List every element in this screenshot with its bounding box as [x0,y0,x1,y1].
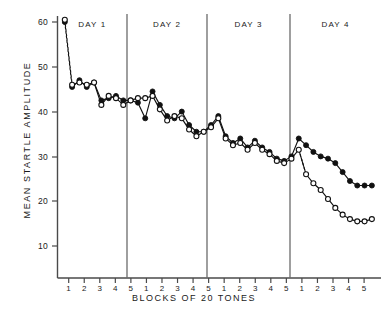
open-circle-series-point-29 [267,152,272,157]
open-circle-series-point-7 [106,93,111,98]
open-circle-series-point-34 [304,172,309,177]
filled-circle-series-point-33 [296,136,301,141]
xtick-label-18: 3 [327,284,339,293]
ytick-label-10: 10 [26,241,48,251]
filled-circle-series-point-39 [340,170,345,175]
open-circle-series-point-32 [289,156,294,161]
filled-circle-series-point-38 [333,161,338,166]
open-circle-series-point-42 [362,219,367,224]
xtick-label-7: 2 [156,284,168,293]
xtick-label-2: 2 [78,284,90,293]
x-axis-ticks [69,278,364,283]
open-circle-series-point-37 [326,196,331,201]
open-circle-series-point-18 [187,127,192,132]
open-circle-series-point-28 [260,147,265,152]
xtick-label-5: 5 [125,284,137,293]
day-label-1: DAY 1 [62,20,122,29]
open-circle-series-point-11 [135,96,140,101]
open-circle-series-point-26 [245,147,250,152]
filled-circle-series-point-41 [355,183,360,188]
y-axis-ticks [52,22,58,246]
open-circle-series-point-5 [92,80,97,85]
plot-canvas [0,0,388,317]
open-circle-series-point-8 [113,96,118,101]
open-circle-series-point-25 [238,140,243,145]
xtick-label-11: 1 [218,284,230,293]
xtick-label-9: 4 [187,284,199,293]
x-axis-title: BLOCKS OF 20 TONES [0,293,388,303]
open-circle-series-point-14 [157,107,162,112]
open-circle-series-point-15 [165,118,170,123]
open-circle-series-point-40 [347,217,352,222]
filled-circle-series-point-37 [326,156,331,161]
open-circle-series-point-16 [172,114,177,119]
xtick-label-10: 5 [203,284,215,293]
series-markers [62,17,374,224]
day-label-3: DAY 3 [219,20,279,29]
xtick-label-16: 1 [296,284,308,293]
axis-lines [58,16,382,278]
xtick-label-20: 5 [358,284,370,293]
open-circle-series-point-22 [216,116,221,121]
open-circle-series-point-19 [194,134,199,139]
open-circle-series-point-13 [150,93,155,98]
open-circle-series-point-41 [355,219,360,224]
open-circle-series-point-27 [252,140,257,145]
open-circle-series-point-20 [201,129,206,134]
open-circle-series-point-10 [128,98,133,103]
xtick-label-3: 3 [94,284,106,293]
open-circle-series-point-31 [282,161,287,166]
xtick-label-6: 1 [140,284,152,293]
xtick-label-8: 3 [172,284,184,293]
open-circle-series-point-30 [274,158,279,163]
open-circle-series-point-36 [318,188,323,193]
day-dividers [127,14,290,278]
open-circle-series-point-23 [223,136,228,141]
day-label-4: DAY 4 [306,20,366,29]
open-circle-series-point-35 [311,181,316,186]
y-axis-title: MEAN STARTLE AMPLITUDE [22,55,32,225]
open-circle-series-point-43 [369,217,374,222]
filled-circle-series-point-35 [311,149,316,154]
filled-circle-series-point-42 [362,183,367,188]
xtick-label-13: 3 [249,284,261,293]
xtick-label-12: 2 [234,284,246,293]
open-circle-series-point-12 [143,96,148,101]
startle-amplitude-chart: 60 50 40 30 20 10 12345123451234512345 D… [0,0,388,317]
filled-circle-series-point-17 [179,109,184,114]
open-circle-series-point-17 [179,116,184,121]
xtick-label-4: 4 [109,284,121,293]
open-circle-series-point-38 [333,205,338,210]
open-circle-series-point-21 [209,125,214,130]
filled-circle-series-point-43 [369,183,374,188]
open-circle-series-point-24 [230,143,235,148]
xtick-label-14: 4 [265,284,277,293]
open-circle-series-point-6 [99,102,104,107]
filled-circle-series-point-40 [347,179,352,184]
open-circle-series-point-39 [340,212,345,217]
filled-circle-series-point-34 [304,143,309,148]
xtick-label-1: 1 [63,284,75,293]
open-circle-series-point-3 [77,80,82,85]
xtick-label-19: 4 [343,284,355,293]
xtick-label-17: 2 [311,284,323,293]
open-circle-series-lead-segment [65,20,72,85]
ytick-label-60: 60 [26,17,48,27]
open-circle-series-point-33 [296,147,301,152]
open-circle-series-point-9 [121,102,126,107]
xtick-label-15: 5 [280,284,292,293]
filled-circle-series-point-36 [318,154,323,159]
filled-circle-series-point-12 [143,116,148,121]
open-circle-series-point-2 [70,82,75,87]
open-circle-series-point-4 [84,82,89,87]
day-label-2: DAY 2 [137,20,197,29]
